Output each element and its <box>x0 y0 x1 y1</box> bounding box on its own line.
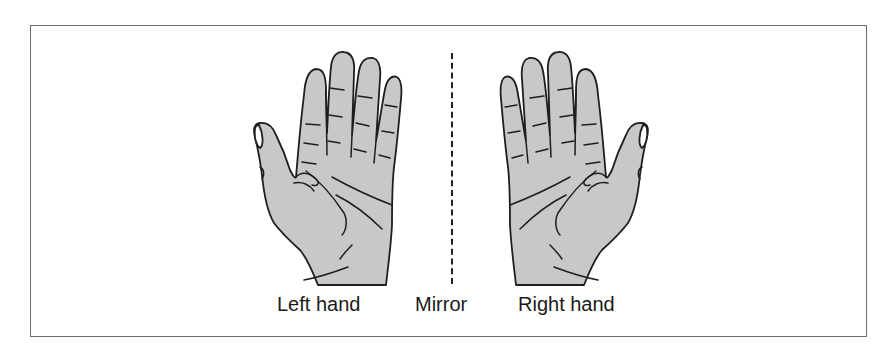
right-hand-label: Right hand <box>518 293 615 316</box>
left-hand-label: Left hand <box>277 293 360 316</box>
mirror-dashed-line <box>451 53 453 284</box>
left-hand-icon <box>240 45 410 290</box>
figure-frame <box>30 25 867 337</box>
mirror-label: Mirror <box>415 293 467 316</box>
right-hand-icon <box>492 45 662 290</box>
